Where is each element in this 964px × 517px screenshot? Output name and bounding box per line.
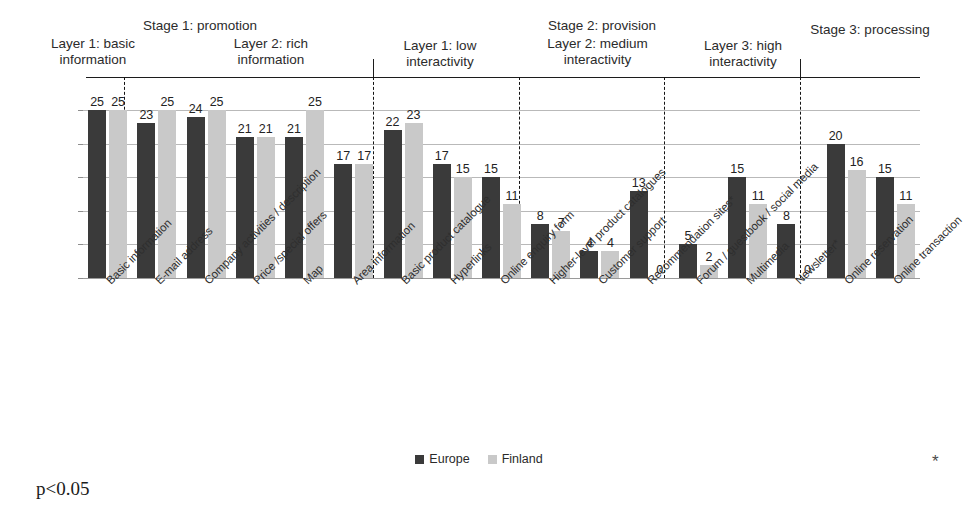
bar-value-label: 23 bbox=[397, 108, 431, 122]
bar-europe[interactable] bbox=[88, 110, 106, 278]
stage-label: Stage 1: promotion bbox=[100, 18, 300, 34]
significance-note: p<0.05 bbox=[36, 478, 89, 500]
bar-slot: 25 bbox=[206, 110, 227, 278]
bar-group: 1717 bbox=[329, 110, 378, 278]
header-divider-tick bbox=[800, 59, 801, 77]
bar-slot: 16 bbox=[846, 110, 867, 278]
layer-label: Layer 3: high interactivity bbox=[673, 38, 813, 69]
stage-label: Stage 2: provision bbox=[512, 18, 692, 34]
bar-group: 2525 bbox=[83, 110, 132, 278]
bar-slot: 25 bbox=[157, 110, 178, 278]
bar-slot: 25 bbox=[305, 110, 326, 278]
bar-slot: 11 bbox=[748, 110, 769, 278]
bar-slot: 7 bbox=[551, 110, 572, 278]
bar-slot: 21 bbox=[255, 110, 276, 278]
bar-slot: 2 bbox=[698, 110, 719, 278]
bar-slot: 15 bbox=[452, 110, 473, 278]
bar-value-label: 25 bbox=[200, 95, 234, 109]
stage-label: Stage 3: processing bbox=[780, 22, 960, 38]
legend-swatch-finland bbox=[488, 455, 497, 464]
layer-label: Layer 1: basic information bbox=[28, 36, 158, 67]
bar-value-label: 25 bbox=[101, 95, 135, 109]
legend-swatch-europe bbox=[415, 455, 424, 464]
bar-slot: 0 bbox=[797, 110, 818, 278]
bar-slot: 11 bbox=[501, 110, 522, 278]
chart-legend: EuropeFinland bbox=[0, 452, 958, 466]
bar-finland[interactable] bbox=[158, 110, 176, 278]
bar-europe[interactable] bbox=[334, 164, 352, 278]
bar-finland[interactable] bbox=[109, 110, 127, 278]
bar-finland[interactable] bbox=[306, 110, 324, 278]
bar-slot: 17 bbox=[354, 110, 375, 278]
layer-label: Layer 2: medium interactivity bbox=[515, 36, 680, 67]
bar-value-label: 11 bbox=[495, 189, 529, 203]
legend-label: Finland bbox=[502, 452, 543, 466]
bar-slot: 23 bbox=[403, 110, 424, 278]
bar-slot: 11 bbox=[895, 110, 916, 278]
bar-value-label: 11 bbox=[889, 189, 923, 203]
bar-value-label: 17 bbox=[347, 149, 381, 163]
bar-slot: 25 bbox=[87, 110, 108, 278]
bar-slot: 17 bbox=[333, 110, 354, 278]
header-rule bbox=[86, 77, 920, 78]
bar-finland[interactable] bbox=[208, 110, 226, 278]
layer-label: Layer 1: low interactivity bbox=[374, 38, 506, 69]
bar-value-label: 25 bbox=[298, 95, 332, 109]
bar-slot: 0 bbox=[649, 110, 670, 278]
layer-label: Layer 2: rich information bbox=[196, 36, 346, 67]
bar-finland[interactable] bbox=[405, 123, 423, 278]
bar-slot: 25 bbox=[108, 110, 129, 278]
bar-europe[interactable] bbox=[433, 164, 451, 278]
bar-slot: 4 bbox=[600, 110, 621, 278]
legend-label: Europe bbox=[429, 452, 469, 466]
legend-item[interactable]: Europe bbox=[415, 452, 469, 466]
asterisk-marker: * bbox=[932, 452, 939, 472]
category-axis-labels: Basic informationE-mail addressCompany a… bbox=[83, 278, 920, 408]
header-divider-tick bbox=[373, 59, 374, 77]
legend-item[interactable]: Finland bbox=[488, 452, 543, 466]
